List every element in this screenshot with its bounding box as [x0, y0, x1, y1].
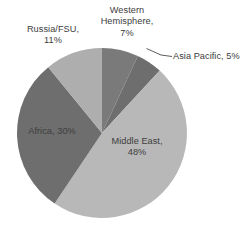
asia-pacific-leader-line	[147, 49, 173, 57]
pie-label-middle-east: Middle East, 48%	[98, 136, 176, 159]
pie-label-asia-pacific: Asia Pacific, 5%	[173, 51, 249, 62]
pie-label-western-hemisphere: Western Hemisphere, 7%	[87, 5, 167, 39]
pie-label-russia-fsu: Russia/FSU, 11%	[10, 24, 96, 47]
pie-label-africa: Africa, 30%	[12, 126, 92, 137]
pie-chart-figure: Western Hemisphere, 7% Russia/FSU, 11% A…	[0, 0, 250, 229]
